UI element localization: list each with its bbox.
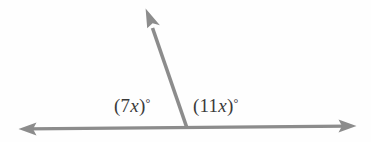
horizontal-line-group [19,120,357,136]
left-angle-variable: x [130,95,139,116]
right-angle-degree-symbol: ° [233,96,238,110]
left-angle-degree-symbol: ° [145,96,150,110]
right-angle-variable: x [218,95,227,116]
right-angle-label: (11x)° [193,96,238,115]
left-angle-label: (7x)° [114,96,150,115]
left-angle-coefficient: 7 [121,95,131,116]
slanted-ray-group [146,9,187,128]
right-angle-coefficient: 11 [200,95,219,116]
ray-arrowhead-icon [146,9,160,29]
angle-diagram-figure: (7x)° (11x)° [0,0,371,142]
geometry-canvas [0,0,371,142]
slanted-ray [153,28,187,128]
